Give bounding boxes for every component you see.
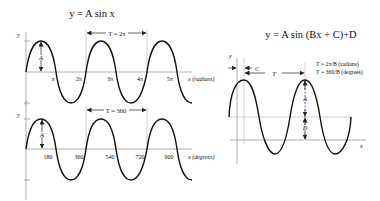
bottom-amplitude-label: A (39, 131, 44, 138)
top-period-label: T = 2π (108, 30, 126, 37)
bottom-tick-360: 360 (75, 154, 84, 160)
right-phase-label: C (255, 65, 260, 72)
sine-wave-diagram: y = A sin x y = A sin (Bx + C)+D y T = 2… (0, 0, 380, 201)
right-formula-degrees: T = 360/B (degrees) (316, 69, 363, 76)
right-offset-label: D (302, 124, 308, 131)
bottom-tick-900: 900 (165, 154, 174, 160)
bottom-plot: y T = 360 A 180 360 540 720 900 x (degre… (16, 100, 215, 200)
top-tick-2pi: 2π (76, 76, 82, 82)
top-plot: y T = 2π A π 2π 3π 4π 5π x (radians) (16, 30, 215, 106)
title-right: y = A sin (Bx + C)+D (265, 29, 357, 41)
title-left: y = A sin x (69, 8, 115, 19)
top-tick-3pi: 3π (107, 76, 113, 82)
right-formula-radians: T = 2π/B (radians) (316, 61, 359, 68)
right-period-label: T (272, 70, 276, 77)
top-tick-4pi: 4π (137, 76, 143, 82)
bottom-y-label: y (16, 111, 20, 118)
bottom-tick-180: 180 (44, 154, 53, 160)
right-x-axis-label: x (359, 143, 363, 149)
bottom-x-axis-label: x (degrees) (187, 154, 215, 161)
top-tick-pi: π (51, 76, 54, 82)
bottom-tick-540: 540 (106, 154, 115, 160)
right-y-label: y (228, 52, 232, 59)
right-amplitude-label: A (302, 95, 307, 102)
right-plot: y C T T = 2π/B (radians) T = 360/B (degr… (228, 52, 366, 164)
top-x-axis-label: x (radians) (187, 76, 215, 83)
top-y-label: y (16, 31, 20, 38)
bottom-period-label: T = 360 (106, 107, 127, 114)
bottom-tick-720: 720 (136, 154, 145, 160)
top-amplitude-label: A (38, 54, 43, 61)
bottom-sine-curve (26, 119, 192, 180)
top-tick-5pi: 5π (167, 76, 173, 82)
